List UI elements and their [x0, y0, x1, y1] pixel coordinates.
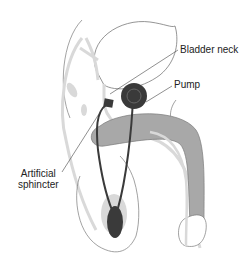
tubing-right: [118, 96, 133, 208]
label-artificial: Artificial: [18, 168, 59, 179]
pump-icon: [121, 83, 147, 109]
bladder-outline: [94, 22, 177, 89]
label-sphincter: sphincter: [18, 179, 59, 190]
leader-bladder-neck: [110, 50, 178, 94]
glans: [179, 215, 207, 247]
anatomy-diagram: [0, 0, 252, 268]
reservoir: [107, 206, 123, 238]
sphincter-cuff: [103, 98, 113, 107]
label-bladder-neck: Bladder neck: [180, 44, 238, 55]
vessel-pathway: [63, 38, 96, 230]
leader-pump: [146, 86, 172, 102]
label-artificial-sphincter: Artificial sphincter: [18, 168, 59, 190]
label-pump: Pump: [174, 79, 200, 90]
